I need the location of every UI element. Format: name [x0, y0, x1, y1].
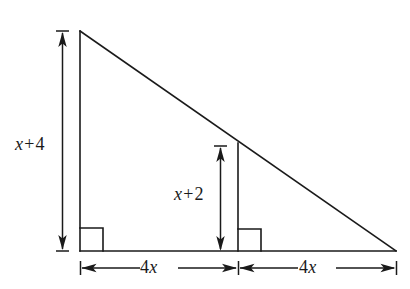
- label-left-height: x+4: [15, 135, 45, 153]
- label-base-right-coefficient: 4: [299, 257, 308, 277]
- label-left-height-operator: +: [23, 134, 35, 154]
- label-left-height-variable: x: [15, 134, 23, 154]
- dimension-inner-height: [214, 146, 227, 251]
- label-inner-height: x+2: [174, 185, 204, 203]
- figure-canvas: [0, 0, 410, 289]
- label-base-left: 4x: [140, 258, 157, 276]
- label-base-right-variable: x: [308, 257, 316, 277]
- geometry-figure: x+4 x+2 4x 4x: [0, 0, 410, 289]
- label-inner-height-number: 2: [195, 184, 204, 204]
- label-base-left-variable: x: [149, 257, 157, 277]
- label-inner-height-operator: +: [182, 184, 194, 204]
- label-left-height-number: 4: [36, 134, 45, 154]
- dimension-base-right: [240, 261, 397, 275]
- label-base-left-coefficient: 4: [140, 257, 149, 277]
- dimension-left-height: [56, 31, 69, 251]
- label-inner-height-variable: x: [174, 184, 182, 204]
- right-angle-mark-inner: [238, 229, 261, 251]
- dimension-base-left: [81, 261, 238, 275]
- right-angle-mark-left: [80, 228, 103, 251]
- label-base-right: 4x: [299, 258, 316, 276]
